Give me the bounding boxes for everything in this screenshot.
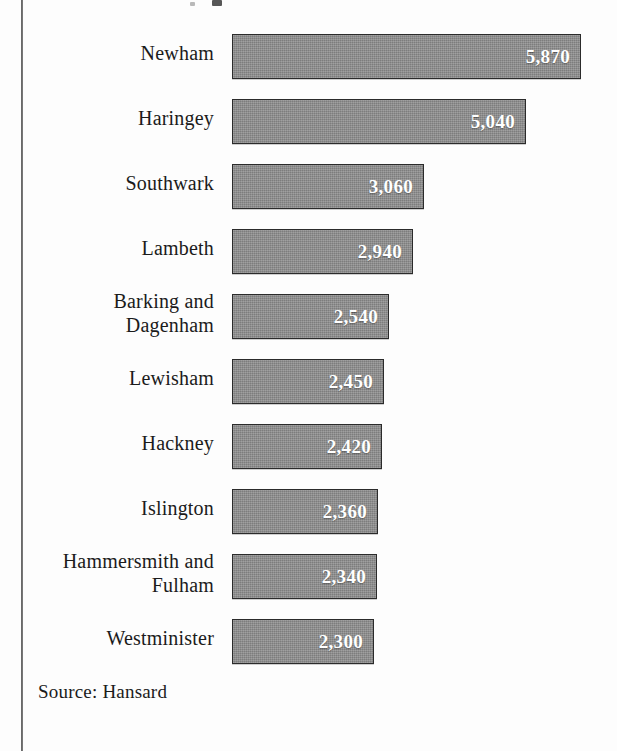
bar-value-barking-and-dagenham: 2,540 xyxy=(334,306,388,328)
bar-value-islington: 2,360 xyxy=(323,501,377,523)
bar-value-newham: 5,870 xyxy=(526,46,580,68)
chart-figure: Newham 5,870 Haringey 5,040 Southwark 3,… xyxy=(0,0,617,751)
category-label-lewisham: Lewisham xyxy=(14,355,214,400)
chart-row: Lambeth 2,940 xyxy=(0,225,617,290)
category-label-lambeth: Lambeth xyxy=(14,225,214,270)
chart-row: Haringey 5,040 xyxy=(0,95,617,160)
chart-row: Hackney 2,420 xyxy=(0,420,617,485)
bar-value-haringey: 5,040 xyxy=(471,111,525,133)
category-label-hammersmith-and-fulham: Hammersmith and Fulham xyxy=(14,550,214,595)
chart-row: Barking and Dagenham 2,540 xyxy=(0,290,617,355)
category-label-barking-and-dagenham: Barking and Dagenham xyxy=(14,290,214,335)
bar-hackney: 2,420 xyxy=(232,424,382,469)
category-label-newham: Newham xyxy=(14,30,214,75)
bar-southwark: 3,060 xyxy=(232,164,424,209)
category-label-hackney: Hackney xyxy=(14,420,214,465)
bar-value-lewisham: 2,450 xyxy=(329,371,383,393)
cropped-title-remnant-secondary xyxy=(190,2,195,6)
chart-row: Hammersmith and Fulham 2,340 xyxy=(0,550,617,615)
chart-row: Lewisham 2,450 xyxy=(0,355,617,420)
bar-barking-and-dagenham: 2,540 xyxy=(232,294,389,339)
category-label-westminister: Westminister xyxy=(14,615,214,660)
bar-value-hackney: 2,420 xyxy=(327,436,381,458)
bar-value-southwark: 3,060 xyxy=(369,176,423,198)
chart-row: Southwark 3,060 xyxy=(0,160,617,225)
bar-islington: 2,360 xyxy=(232,489,378,534)
bar-westminister: 2,300 xyxy=(232,619,374,664)
bar-value-lambeth: 2,940 xyxy=(358,241,412,263)
bar-chart-plot-area: Newham 5,870 Haringey 5,040 Southwark 3,… xyxy=(0,30,617,680)
bar-lewisham: 2,450 xyxy=(232,359,384,404)
bar-haringey: 5,040 xyxy=(232,99,526,144)
bar-value-westminister: 2,300 xyxy=(319,631,373,653)
bar-lambeth: 2,940 xyxy=(232,229,413,274)
category-label-haringey: Haringey xyxy=(14,95,214,140)
cropped-title-remnant xyxy=(212,0,222,6)
chart-row: Westminister 2,300 xyxy=(0,615,617,680)
source-note: Source: Hansard xyxy=(38,681,167,703)
category-label-islington: Islington xyxy=(14,485,214,530)
bar-hammersmith-and-fulham: 2,340 xyxy=(232,554,377,599)
category-label-southwark: Southwark xyxy=(14,160,214,205)
bar-newham: 5,870 xyxy=(232,34,581,79)
bar-value-hammersmith-and-fulham: 2,340 xyxy=(322,566,376,588)
chart-row: Newham 5,870 xyxy=(0,30,617,95)
chart-row: Islington 2,360 xyxy=(0,485,617,550)
